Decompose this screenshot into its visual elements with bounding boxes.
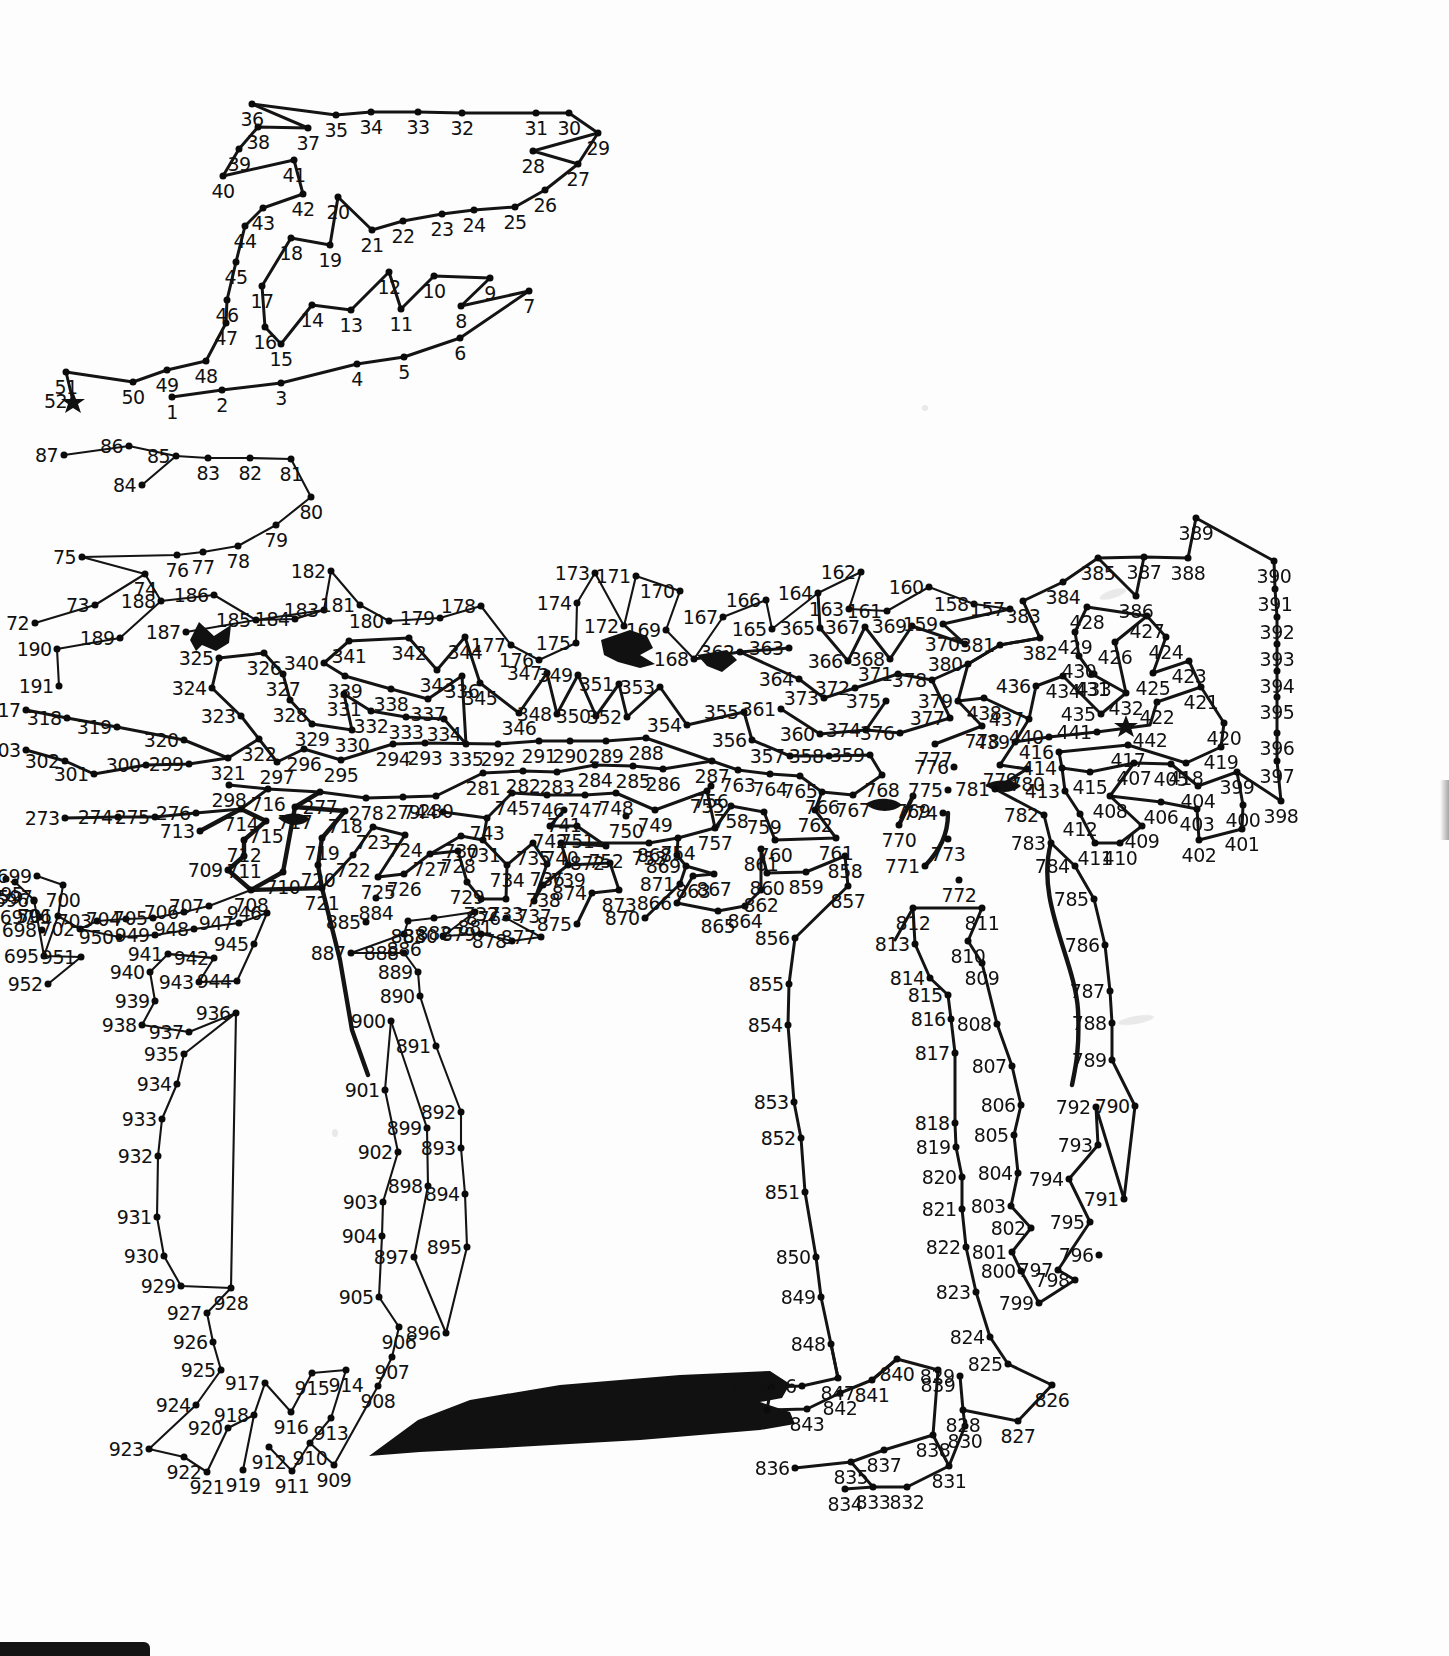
dot-label-929: 929 [141, 1277, 176, 1296]
dot-label-713: 713 [160, 822, 195, 841]
dot-label-417: 417 [1111, 751, 1146, 770]
dot-marker-729 [464, 879, 471, 886]
dot-label-433: 433 [1077, 680, 1112, 699]
dot-marker-22 [400, 218, 407, 225]
dot-marker-188 [158, 598, 165, 605]
dot-label-402: 402 [1182, 846, 1217, 865]
dot-label-786: 786 [1065, 936, 1100, 955]
dot-marker-166 [763, 597, 770, 604]
dot-label-318: 318 [27, 709, 62, 728]
dot-marker-46 [224, 297, 231, 304]
dot-label-850: 850 [776, 1248, 811, 1267]
dot-marker-763 [735, 767, 742, 774]
dot-marker-779 [997, 762, 1004, 769]
dot-marker-807 [1009, 1063, 1016, 1070]
dot-marker-719 [319, 835, 326, 842]
dot-marker-167 [720, 614, 727, 621]
dot-label-855: 855 [749, 975, 784, 994]
dot-label-79: 79 [264, 531, 287, 550]
dot-marker-189 [117, 635, 124, 642]
dot-label-924: 924 [156, 1396, 191, 1415]
dot-label-73: 73 [66, 596, 89, 615]
dot-marker-892 [458, 1109, 465, 1116]
dot-label-844: 844 [727, 1401, 762, 1420]
dot-marker-325 [216, 655, 223, 662]
dot-label-751: 751 [560, 832, 595, 851]
dot-label-284: 284 [578, 771, 613, 790]
dot-marker-365 [817, 625, 824, 632]
dot-label-845: 845 [731, 1378, 766, 1397]
dot-label-794: 794 [1029, 1170, 1064, 1189]
dot-marker-13 [348, 307, 355, 314]
dot-marker-791 [1121, 1196, 1128, 1203]
dot-label-330: 330 [335, 736, 370, 755]
dot-label-411: 411 [1078, 849, 1113, 868]
dot-marker-927 [204, 1310, 211, 1317]
dot-label-436: 436 [996, 677, 1031, 696]
dot-marker-870 [642, 915, 649, 922]
dot-marker-794 [1066, 1176, 1073, 1183]
dot-marker-725 [375, 874, 382, 881]
dot-label-434: 434 [1046, 682, 1081, 701]
dot-label-393: 393 [1260, 650, 1295, 669]
dot-label-407: 407 [1117, 769, 1152, 788]
dot-label-937: 937 [149, 1023, 184, 1042]
dot-label-910: 910 [293, 1449, 328, 1468]
dot-marker-916 [288, 1409, 295, 1416]
dot-marker-319 [114, 724, 121, 731]
dot-label-895: 895 [427, 1238, 462, 1257]
dot-marker-904 [379, 1233, 386, 1240]
dot-label-11: 11 [389, 315, 412, 334]
dot-label-830: 830 [948, 1432, 983, 1451]
dot-marker-376 [897, 730, 904, 737]
dot-label-903: 903 [343, 1193, 378, 1212]
dot-marker-775 [945, 787, 952, 794]
dot-label-386: 386 [1119, 602, 1154, 621]
dot-marker-889 [415, 969, 422, 976]
dot-marker-344 [462, 634, 469, 641]
dot-label-849: 849 [781, 1288, 816, 1307]
dot-marker-10 [431, 273, 438, 280]
dot-marker-391 [1272, 586, 1279, 593]
dot-marker-942 [211, 955, 218, 962]
dot-marker-402 [1196, 837, 1203, 844]
dot-label-383: 383 [1006, 607, 1041, 626]
dot-marker-819 [953, 1144, 960, 1151]
dot-label-949: 949 [115, 926, 150, 945]
dot-label-21: 21 [360, 236, 383, 255]
dot-label-335: 335 [449, 750, 484, 769]
dot-marker-730 [458, 833, 465, 840]
dot-label-320: 320 [144, 731, 179, 750]
dot-label-189: 189 [80, 629, 115, 648]
dot-label-900: 900 [351, 1012, 386, 1031]
dot-marker-813 [912, 941, 919, 948]
dot-marker-422 [1154, 699, 1161, 706]
dot-label-83: 83 [196, 464, 219, 483]
dot-label-181: 181 [320, 596, 355, 615]
dot-marker-767 [850, 792, 857, 799]
dot-marker-318 [64, 715, 71, 722]
dot-marker-76 [174, 552, 181, 559]
dot-marker-883 [405, 918, 412, 925]
dot-label-372: 372 [815, 679, 850, 698]
dot-label-186: 186 [174, 586, 209, 605]
dot-label-768: 768 [865, 781, 900, 800]
dot-marker-856 [792, 935, 799, 942]
dot-label-85: 85 [147, 447, 170, 466]
dot-label-775: 775 [908, 781, 943, 800]
dot-marker-20 [335, 194, 342, 201]
dot-label-748: 748 [599, 799, 634, 818]
dot-label-884: 884 [359, 904, 394, 923]
dot-marker-320 [181, 737, 188, 744]
dot-marker-15 [278, 341, 285, 348]
dot-label-723: 723 [356, 833, 391, 852]
dot-label-781: 781 [955, 780, 990, 799]
dot-marker-413 [1062, 788, 1069, 795]
dot-marker-724 [402, 832, 409, 839]
dot-label-893: 893 [421, 1139, 456, 1158]
dot-label-28: 28 [521, 157, 544, 176]
dot-marker-924 [193, 1402, 200, 1409]
dot-marker-24 [471, 207, 478, 214]
dot-label-832: 832 [890, 1493, 925, 1512]
dot-label-944: 944 [197, 972, 232, 991]
